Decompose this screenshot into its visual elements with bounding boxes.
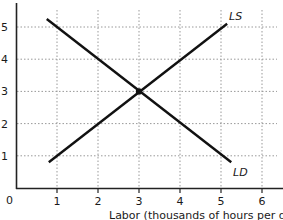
equilibrium-point (136, 88, 142, 94)
tick-labels: 12345123456 (1, 21, 266, 208)
y-tick-label: 2 (1, 118, 8, 131)
y-tick-label: 4 (1, 53, 8, 66)
y-tick-label: 3 (1, 85, 8, 98)
origin-label: 0 (6, 194, 13, 207)
curve-label-ld: LD (233, 166, 248, 179)
x-tick-label: 4 (177, 195, 184, 208)
axes (16, 3, 283, 189)
x-tick-label: 3 (136, 195, 143, 208)
gridlines (17, 10, 277, 188)
x-tick-label: 5 (218, 195, 225, 208)
curves: LSLD (47, 10, 248, 179)
x-axis-label: Labor (thousands of hours per day (109, 209, 283, 220)
x-tick-label: 2 (95, 195, 102, 208)
y-tick-label: 1 (1, 150, 8, 163)
x-tick-label: 1 (54, 195, 61, 208)
y-tick-label: 5 (1, 21, 8, 34)
curve-label-ls: LS (229, 10, 242, 23)
supply-demand-chart: 12345123456 0 LSLD Labor (thousands of h… (0, 0, 283, 220)
x-tick-label: 6 (259, 195, 266, 208)
